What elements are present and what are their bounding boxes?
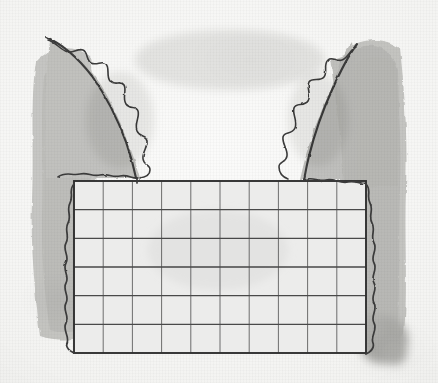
top-centre-wash — [135, 30, 325, 90]
sketch-canvas — [0, 0, 438, 383]
artwork-svg — [0, 0, 438, 383]
